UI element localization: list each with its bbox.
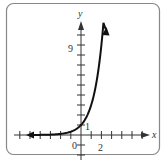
- x-axis-label: x: [151, 129, 157, 140]
- origin-label: 0: [72, 140, 77, 151]
- x-tick-label-2: 2: [98, 142, 103, 153]
- exponential-graph: y x 0 2 1 9: [0, 0, 164, 165]
- y-axis-label: y: [77, 8, 83, 19]
- graph-frame: [7, 4, 160, 155]
- y-tick-label-1: 1: [85, 121, 90, 132]
- exponential-curve: [31, 23, 106, 135]
- y-axis: [77, 21, 85, 160]
- y-tick-label-9: 9: [68, 43, 73, 54]
- y-axis-arrow-icon: [78, 21, 84, 30]
